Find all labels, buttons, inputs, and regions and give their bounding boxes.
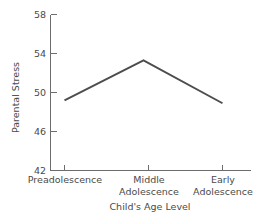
line-chart-figure: 58 54 50 46 42 Preadolescence Middle Ado… (0, 0, 256, 224)
y-tick-label-50: 50 (24, 87, 46, 98)
y-tick-label-46: 46 (24, 126, 46, 137)
x-tick-label-early-adolescence: Adolescence (175, 186, 256, 197)
y-axis-title: Parental Stress (10, 43, 21, 153)
y-tick-label-58: 58 (24, 9, 46, 20)
x-axis-title: Child's Age Level (50, 201, 250, 212)
y-tick-label-54: 54 (24, 48, 46, 59)
data-series-parental-stress (65, 60, 223, 103)
x-tick-label-preadolescence: Preadolescence (17, 174, 113, 185)
x-tick-label-early: Early (175, 174, 256, 185)
